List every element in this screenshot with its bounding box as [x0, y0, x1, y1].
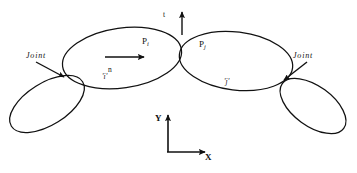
axis-y-label: Y — [155, 114, 162, 123]
diagram-canvas: Joint Joint Pi Pj 'i' 'j' n t Y X — [0, 0, 357, 173]
patch-j-label: Pj — [199, 40, 206, 49]
joint-left-pointer-arrow — [36, 62, 64, 77]
patch-i-label: Pi — [142, 37, 149, 46]
body-i-ellipse — [58, 20, 185, 96]
joint-right-ellipse — [271, 67, 356, 144]
patch-j-subscript: j — [204, 43, 206, 50]
joint-right-label: Joint — [293, 52, 313, 60]
tangent-vector-label: t — [163, 11, 165, 19]
axis-x-label: X — [205, 153, 212, 162]
body-j-ellipse — [176, 25, 296, 96]
joint-left-label: Joint — [26, 52, 46, 60]
patch-i-subscript: i — [147, 40, 149, 47]
normal-vector-label: n — [108, 66, 112, 74]
body-j-label: 'j' — [224, 78, 229, 86]
joint-right-pointer-arrow — [284, 62, 307, 80]
joint-left-ellipse — [0, 64, 93, 144]
body-i-label: 'i' — [102, 73, 107, 81]
figure-svg — [0, 0, 357, 173]
